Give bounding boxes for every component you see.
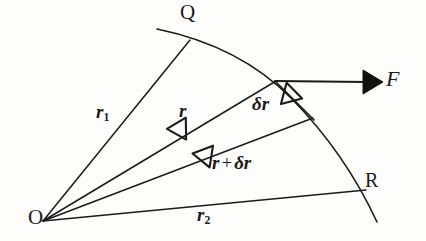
force-label-f: F <box>386 68 399 90</box>
point-label-q: Q <box>180 2 195 23</box>
vector-label-delta-r: δr <box>252 94 269 113</box>
trajectory-arc <box>157 29 377 222</box>
radius-label-r2: r2 <box>197 205 210 227</box>
diagram-canvas <box>0 0 426 241</box>
point-label-r: R <box>365 170 378 190</box>
vector-r-line <box>43 81 276 221</box>
radius-label-r1-subscript: 1 <box>103 111 109 124</box>
point-label-o: O <box>28 207 43 228</box>
vector-r-plus-delta-r-line <box>43 118 313 221</box>
radius-label-r2-subscript: 2 <box>204 214 210 227</box>
delta-r-arrow-marker <box>273 83 302 112</box>
force-F-arrowhead <box>363 70 383 94</box>
vector-label-r-plus-delta-r-second: δr <box>234 152 251 173</box>
vector-label-r: r <box>179 101 186 120</box>
vector-label-plus-operator: + <box>219 152 234 173</box>
force-F-line <box>275 81 366 82</box>
polar-vector-diagram: Q O R F r1 r2 r δr r+δr <box>0 0 426 241</box>
vector-label-r-plus-delta-r: r+δr <box>212 153 251 172</box>
radius-label-r1: r1 <box>96 102 109 124</box>
